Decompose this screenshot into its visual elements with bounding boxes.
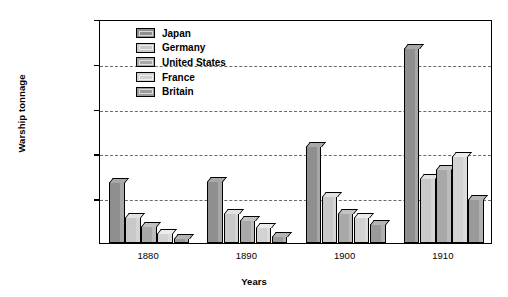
bar <box>436 169 452 243</box>
legend-swatch <box>136 57 155 67</box>
y-axis-tick-mark <box>94 199 99 200</box>
bar-side-face <box>431 179 435 242</box>
legend-swatch-inner <box>139 31 153 36</box>
chart-legend: JapanGermanyUnited StatesFranceBritain <box>136 26 226 99</box>
bar-top-face <box>256 223 275 228</box>
bar-top-face <box>370 220 389 225</box>
legend-label: Britain <box>162 86 194 97</box>
legend-swatch-inner <box>139 60 153 65</box>
bar <box>157 233 173 243</box>
bar-top-face <box>174 234 193 239</box>
bar-side-face <box>283 237 287 242</box>
bar-side-face <box>463 157 467 242</box>
legend-label: United States <box>162 57 226 68</box>
bar <box>322 196 338 243</box>
bar-side-face <box>251 221 255 242</box>
bar-side-face <box>136 218 140 242</box>
bar <box>141 226 157 243</box>
bar <box>240 220 256 243</box>
bar <box>109 182 125 243</box>
bar-top-face <box>141 222 160 227</box>
legend-swatch <box>136 72 155 82</box>
bar-side-face <box>152 227 156 242</box>
y-axis-title: Warship tonnage <box>16 49 27 179</box>
y-axis-tick-mark <box>94 20 99 21</box>
legend-item: Britain <box>136 84 226 99</box>
bar-side-face <box>365 218 369 242</box>
bar-top-face <box>125 213 144 218</box>
bar-top-face <box>404 44 423 49</box>
legend-swatch <box>136 43 155 53</box>
y-axis-tick-mark <box>94 65 99 66</box>
bar-side-face <box>267 228 271 242</box>
bar-side-face <box>185 239 189 242</box>
bar <box>174 238 190 243</box>
bar <box>224 213 240 243</box>
bar-side-face <box>120 183 124 242</box>
bar-side-face <box>333 197 337 242</box>
gridline <box>100 155 491 156</box>
y-axis-tick-mark <box>94 154 99 155</box>
x-axis-tick-label: 1900 <box>305 250 385 261</box>
bar-side-face <box>415 49 419 242</box>
bar <box>404 48 420 243</box>
bar <box>354 217 370 243</box>
bar-top-face <box>322 192 341 197</box>
gridline <box>100 111 491 112</box>
bar-side-face <box>447 170 451 242</box>
bar-top-face <box>354 213 373 218</box>
legend-item: France <box>136 70 226 85</box>
bar-top-face <box>207 177 226 182</box>
bar-side-face <box>218 182 222 242</box>
x-axis-title: Years <box>0 276 508 287</box>
bar-side-face <box>381 225 385 242</box>
plot-area: JapanGermanyUnited StatesFranceBritain <box>99 20 492 244</box>
x-axis-tick-label: 1910 <box>403 250 483 261</box>
bar <box>468 199 484 243</box>
bar-top-face <box>224 209 243 214</box>
bar-top-face <box>157 229 176 234</box>
legend-label: Germany <box>162 42 205 53</box>
legend-swatch-inner <box>139 45 153 50</box>
bar-top-face <box>240 216 259 221</box>
bar-side-face <box>479 200 483 242</box>
legend-swatch <box>136 28 155 38</box>
legend-item: Japan <box>136 26 226 41</box>
bar-side-face <box>349 214 353 242</box>
bar-side-face <box>235 214 239 242</box>
bar-top-face <box>109 178 128 183</box>
bar-top-face <box>338 209 357 214</box>
bar-side-face <box>168 234 172 242</box>
bar <box>125 217 141 243</box>
legend-label: France <box>162 72 195 83</box>
bar <box>420 178 436 243</box>
y-axis-tick-mark <box>94 110 99 111</box>
x-axis-tick-label: 1880 <box>108 250 188 261</box>
bar <box>306 146 322 243</box>
legend-swatch-inner <box>139 89 153 94</box>
bar-top-face <box>272 232 291 237</box>
chart-figure: Warship tonnage Years JapanGermanyUnited… <box>0 0 508 297</box>
legend-swatch-inner <box>139 75 153 80</box>
legend-swatch <box>136 87 155 97</box>
bar <box>207 181 223 243</box>
bar-side-face <box>317 147 321 242</box>
bar <box>452 156 468 243</box>
bar <box>272 236 288 243</box>
x-axis-tick-label: 1890 <box>206 250 286 261</box>
bar <box>256 227 272 243</box>
legend-item: United States <box>136 55 226 70</box>
legend-item: Germany <box>136 41 226 56</box>
bar <box>370 224 386 243</box>
bar-top-face <box>306 142 325 147</box>
legend-label: Japan <box>162 28 191 39</box>
bar <box>338 213 354 243</box>
